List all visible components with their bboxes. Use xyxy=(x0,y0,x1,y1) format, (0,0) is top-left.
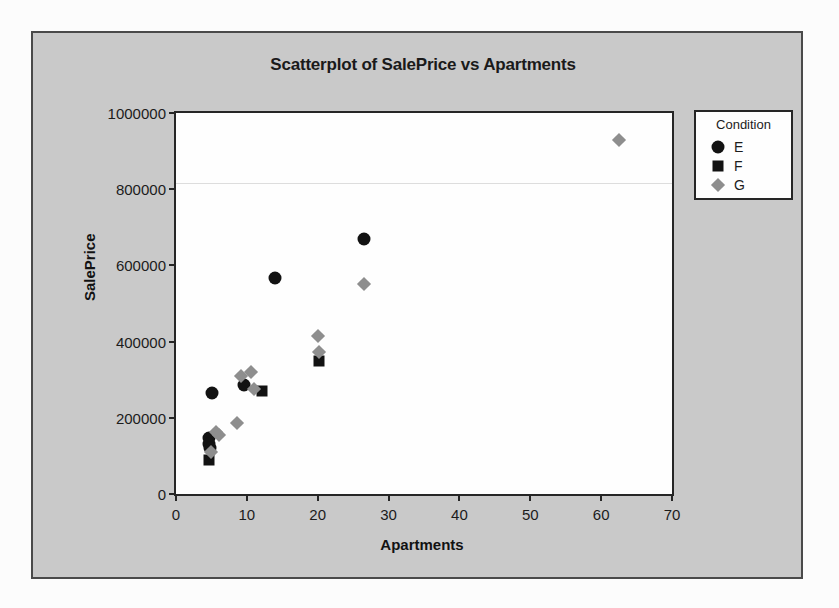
diamond-icon xyxy=(710,177,726,193)
legend: Condition EFG xyxy=(694,110,793,200)
x-axis-tick-label: 0 xyxy=(172,506,180,523)
x-axis-tick-label: 20 xyxy=(309,506,326,523)
x-axis-tick xyxy=(600,494,602,501)
y-axis-tick-label: 0 xyxy=(158,486,166,503)
y-axis-tick xyxy=(169,112,176,114)
y-axis-tick-label: 1000000 xyxy=(108,105,166,122)
y-axis-tick-label: 400000 xyxy=(116,333,166,350)
x-axis-tick-label: 50 xyxy=(522,506,539,523)
y-axis-tick-label: 600000 xyxy=(116,257,166,274)
x-axis-tick-label: 30 xyxy=(380,506,397,523)
y-axis-tick xyxy=(169,417,176,419)
data-point-E xyxy=(358,233,371,246)
y-axis-tick-label: 200000 xyxy=(116,409,166,426)
square-icon xyxy=(710,158,726,174)
x-axis-tick-label: 70 xyxy=(664,506,681,523)
page-root: Scatterplot of SalePrice vs Apartments S… xyxy=(0,0,839,608)
x-axis-tick-label: 60 xyxy=(593,506,610,523)
data-point-E xyxy=(269,271,282,284)
data-point-G xyxy=(357,277,371,291)
y-axis-tick-label: 800000 xyxy=(116,181,166,198)
y-axis-tick xyxy=(169,188,176,190)
legend-entry-label: E xyxy=(734,139,743,155)
legend-entry-label: G xyxy=(734,177,745,193)
chart-title: Scatterplot of SalePrice vs Apartments xyxy=(173,55,673,75)
y-axis-title: SalePrice xyxy=(81,233,98,301)
legend-entry-G[interactable]: G xyxy=(710,176,745,194)
legend-title: Condition xyxy=(696,117,791,132)
x-axis-tick xyxy=(317,494,319,501)
legend-entry-E[interactable]: E xyxy=(710,138,743,156)
y-axis-tick xyxy=(169,264,176,266)
x-axis-tick xyxy=(671,494,673,501)
y-axis-tick xyxy=(169,341,176,343)
plot-area[interactable]: 02000004000006000008000001000000 0102030… xyxy=(174,111,674,496)
gridline xyxy=(176,183,672,184)
legend-entry-label: F xyxy=(734,158,743,174)
x-axis-tick xyxy=(458,494,460,501)
legend-marker xyxy=(712,141,725,154)
x-axis-tick xyxy=(388,494,390,501)
x-axis-tick-label: 40 xyxy=(451,506,468,523)
legend-marker xyxy=(711,178,725,192)
x-axis-tick-label: 10 xyxy=(239,506,256,523)
data-point-E xyxy=(206,387,219,400)
graph-panel: Scatterplot of SalePrice vs Apartments S… xyxy=(31,31,803,579)
data-point-G xyxy=(612,133,626,147)
data-point-G xyxy=(230,416,244,430)
legend-marker xyxy=(713,161,724,172)
x-axis-title: Apartments xyxy=(174,536,670,553)
legend-entry-F[interactable]: F xyxy=(710,157,743,175)
data-point-G xyxy=(311,329,325,343)
x-axis-tick xyxy=(246,494,248,501)
x-axis-tick xyxy=(175,494,177,501)
circle-icon xyxy=(710,139,726,155)
x-axis-tick xyxy=(529,494,531,501)
